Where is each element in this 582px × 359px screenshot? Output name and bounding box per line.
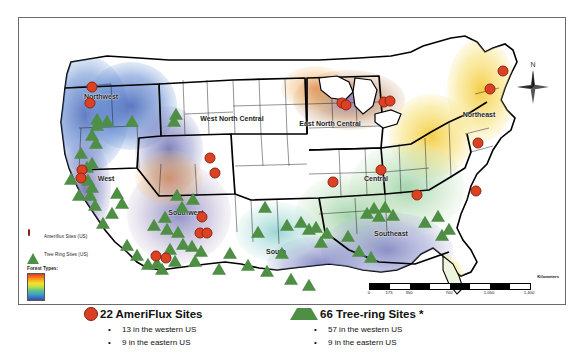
ameriflux-site-marker [498,66,509,77]
ameriflux-site-marker [412,190,423,201]
map-legend: Ameriflux Sites (US) Tree Ring Sites (US… [27,230,139,301]
treering-site-marker [241,259,255,271]
treering-site-marker [418,216,432,228]
figure-caption: 22 AmeriFlux Sites 13 in the western US … [0,306,582,359]
legend-label-ameriflux: Ameriflux Sites (US) [44,234,87,239]
treering-site-marker [302,279,316,291]
treering-site-marker [88,199,102,211]
caption-ameriflux-heading: 22 AmeriFlux Sites [100,308,202,320]
ameriflux-site-marker [205,153,216,164]
list-item: 9 in the eastern US [84,338,202,347]
treering-site-marker [89,137,103,149]
treering-site-marker [115,197,129,209]
caption-treering: 66 Tree-ring Sites * 57 in the western U… [290,306,424,351]
caption-ameriflux: 22 AmeriFlux Sites 13 in the western US … [84,306,202,351]
ameriflux-site-marker [87,82,98,93]
treering-site-marker [175,201,189,213]
caption-ameriflux-heading-row: 22 AmeriFlux Sites [84,306,202,322]
compass-rose-icon: N [513,56,553,108]
ameriflux-site-marker [76,173,87,184]
treering-site-marker [280,219,294,231]
legend-item-ameriflux: Ameriflux Sites (US) [27,230,139,243]
scale-bar-tick: 175 [386,290,393,295]
treering-site-marker [341,230,355,242]
scale-bar-tick: 1,050 [484,290,494,295]
triangle-marker-icon [290,308,318,320]
map-frame: NorthwestWest North CentralEast North Ce… [18,17,566,305]
caption-treering-heading: 66 Tree-ring Sites * [320,308,424,320]
ameriflux-site-marker [341,100,352,111]
treering-site-marker [364,251,378,263]
scale-bar-tick: 700 [446,290,453,295]
region-label-west-north-central: West North Central [200,115,263,122]
ameriflux-site-marker [202,228,213,239]
ameriflux-site-marker [328,177,339,188]
ameriflux-site-marker [473,138,484,149]
ameriflux-site-marker [485,84,496,95]
region-label-west: West [98,175,115,182]
treering-site-marker [284,273,298,285]
scale-bar-tick: 1,400 [524,290,534,295]
treering-site-marker [125,115,139,127]
treering-site-marker [372,210,386,222]
circle-marker-icon [84,307,98,321]
treering-site-marker [155,263,169,275]
svg-text:N: N [530,61,535,68]
treering-site-marker [96,217,110,229]
region-label-northeast: Northeast [463,111,496,118]
scale-bar-ticks: 01753507001,0501,400 [369,290,529,298]
treering-site-marker [169,108,183,120]
legend-item-treering: Tree Ring Sites (US) [27,248,139,261]
treering-site-marker [386,209,400,221]
treering-site-marker [212,263,226,275]
ameriflux-site-marker [385,96,396,107]
forest-types-color-ramp [27,273,45,301]
forest-types-title: Forest Types: [27,266,139,271]
treering-site-marker [431,210,445,222]
circle-marker-icon [27,230,40,243]
triangle-marker-icon [27,248,40,261]
treering-site-marker [100,115,114,127]
caption-treering-heading-row: 66 Tree-ring Sites * [290,306,424,322]
treering-site-marker [258,201,272,213]
treering-site-marker [72,189,86,201]
scale-bar: Kilometers 01753507001,0501,400 [369,283,559,298]
list-item: 9 in the eastern US [290,338,424,347]
caption-treering-bullets: 57 in the western US 9 in the eastern US [290,325,424,347]
treering-site-marker [223,247,237,259]
caption-ameriflux-bullets: 13 in the western US 9 in the eastern US [84,325,202,347]
scale-bar-tick: 0 [368,290,370,295]
ameriflux-site-marker [161,253,172,264]
treering-site-marker [435,229,449,241]
list-item: 13 in the western US [84,325,202,334]
scale-bar-units: Kilometers [537,274,559,279]
ameriflux-site-marker [471,186,482,197]
region-label-southeast: Southeast [374,230,408,237]
treering-site-marker [171,226,185,238]
treering-site-marker [188,255,202,267]
ameriflux-site-marker [85,98,96,109]
region-label-east-north-central: East North Central [299,120,360,127]
treering-site-marker [260,265,274,277]
treering-site-marker [170,189,184,201]
list-item: 57 in the western US [290,325,424,334]
scale-bar-graphic [369,283,531,290]
treering-site-marker [275,247,289,259]
scale-bar-tick: 350 [406,290,413,295]
ameriflux-site-marker [376,165,387,176]
ameriflux-site-marker [197,212,208,223]
treering-site-marker [251,226,265,238]
region-label-central: Central [364,175,388,182]
legend-label-treering: Tree Ring Sites (US) [44,252,88,257]
treering-site-marker [314,236,328,248]
treering-site-marker [147,219,161,231]
ameriflux-site-marker [210,168,221,179]
